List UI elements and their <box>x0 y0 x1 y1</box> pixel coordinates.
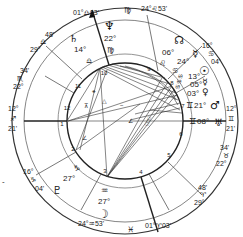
h5-min: 48' <box>198 184 207 191</box>
ic-label: 01°♈03' <box>145 222 171 230</box>
svg-text:27°: 27° <box>98 197 110 206</box>
mercury-icon: ☿ <box>192 48 198 59</box>
svg-text:⊼: ⊼ <box>84 103 88 109</box>
h3-label: 24°♒53' <box>78 220 104 228</box>
svg-text:♎: ♎ <box>86 57 92 65</box>
h6-sign: ♉ <box>223 152 229 160</box>
h12-min: 34' <box>20 67 29 74</box>
h5-sign: ♈ <box>200 191 206 199</box>
h8-min: 04' <box>211 58 220 65</box>
astrology-chart-wheel: 1 2 3 4 5 6 7 8 9 10 11 12 <box>0 0 243 237</box>
sun-icon: ☉ <box>199 64 210 78</box>
house-12: 12 <box>64 105 71 111</box>
asc-sign: ♐ <box>10 115 16 123</box>
h6-min: 34' <box>220 144 229 151</box>
svg-text:♊: ♊ <box>186 101 193 110</box>
svg-text:22°: 22° <box>104 34 116 43</box>
north-node-icon: ☊ <box>174 34 184 47</box>
sign-virgo: ♍ <box>124 6 131 15</box>
mercury2-icon: ☿ <box>202 77 208 87</box>
svg-text:−: − <box>120 102 124 108</box>
dsc-deg: 12° <box>226 105 237 112</box>
mars-icon: ♂ <box>210 99 220 112</box>
asc-min: 21' <box>8 125 17 132</box>
left-dash: - <box>2 177 5 186</box>
neptune-icon: ♆ <box>104 19 115 33</box>
svg-text:03°: 03° <box>187 89 199 98</box>
h11-sign: ♎ <box>40 38 46 46</box>
mc-label: 01°♎03' <box>73 9 99 17</box>
h9-label: 24°♌53' <box>141 5 167 13</box>
h12-sign: ♏ <box>17 75 24 83</box>
svg-text:27°: 27° <box>63 174 75 183</box>
h11-min: 48' <box>45 31 54 38</box>
sign-pisces: ♓ <box>127 225 134 234</box>
svg-text:♒: ♒ <box>101 186 108 195</box>
moon-icon: ☽ <box>98 207 109 221</box>
asc-deg: 12° <box>8 105 19 112</box>
h2-min: 04' <box>35 185 44 192</box>
house-11: 11 <box>75 83 82 89</box>
h8-deg: 16° <box>202 42 213 49</box>
svg-text:21°: 21° <box>194 101 206 110</box>
h6-deg: 22° <box>216 160 227 167</box>
venus-icon: ♀ <box>202 87 209 97</box>
svg-text:♍: ♍ <box>107 46 114 55</box>
svg-text:△: △ <box>102 98 107 104</box>
h8-sign: ♋ <box>208 50 214 58</box>
h2-sign: ♑ <box>30 176 36 184</box>
h5-deg: 29° <box>194 199 205 206</box>
svg-text:24°: 24° <box>177 57 189 66</box>
saturn-icon: ♄ <box>69 33 78 44</box>
svg-text:⚹: ⚹ <box>92 88 96 94</box>
dsc-sign: ♊ <box>228 115 234 123</box>
h11-deg: 29° <box>30 46 41 53</box>
svg-text:06°: 06° <box>162 48 174 57</box>
svg-text:14°: 14° <box>74 45 86 54</box>
h12-deg: 22° <box>13 83 24 90</box>
svg-text:∠: ∠ <box>128 118 133 124</box>
svg-text:08°: 08° <box>197 117 209 126</box>
svg-text:∠: ∠ <box>82 135 87 141</box>
uranus-icon: ♅ <box>214 117 223 128</box>
h2-deg: 16° <box>23 168 34 175</box>
svg-text:♑: ♑ <box>73 164 80 173</box>
dsc-min: 21' <box>226 125 235 132</box>
svg-text:♌: ♌ <box>159 59 166 68</box>
svg-text:05°: 05° <box>190 80 202 89</box>
svg-text:♊: ♊ <box>189 117 196 126</box>
pluto-icon: ♇ <box>52 184 62 197</box>
